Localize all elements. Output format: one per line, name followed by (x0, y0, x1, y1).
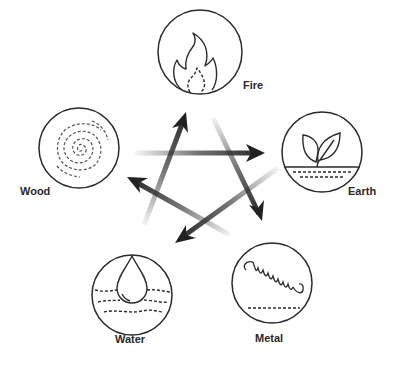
fire-label: Fire (243, 79, 263, 91)
earth-element (282, 112, 362, 192)
wood-element (39, 108, 119, 188)
wood-label: Wood (20, 185, 50, 197)
earth-label: Earth (348, 185, 376, 197)
water-label: Water (115, 333, 145, 345)
five-elements-diagram (0, 0, 394, 365)
arrow-fire-to-metal (213, 118, 264, 221)
metal-label: Metal (255, 332, 283, 344)
water-element (92, 255, 172, 335)
arrow-metal-to-wood (127, 177, 230, 235)
metal-element (232, 243, 312, 323)
arrow-wood-to-earth (135, 144, 265, 162)
fire-element (158, 10, 242, 94)
